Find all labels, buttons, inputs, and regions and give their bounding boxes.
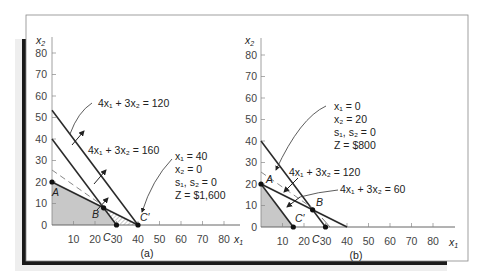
svg-text:x₂ = 20: x₂ = 20 bbox=[334, 113, 367, 125]
svg-text:20: 20 bbox=[89, 233, 101, 245]
label-c: C bbox=[312, 233, 320, 245]
svg-text:30: 30 bbox=[111, 233, 123, 245]
svg-text:Z = $800: Z = $800 bbox=[334, 139, 376, 151]
svg-text:20: 20 bbox=[245, 178, 257, 190]
svg-text:70: 70 bbox=[197, 233, 209, 245]
svg-text:Z = $1,600: Z = $1,600 bbox=[175, 189, 226, 201]
svg-text:80: 80 bbox=[245, 49, 257, 61]
svg-text:0: 0 bbox=[251, 221, 257, 233]
svg-text:60: 60 bbox=[35, 90, 47, 102]
label-60: 4x₁ + 3x₂ = 60 bbox=[340, 183, 406, 195]
svg-text:10: 10 bbox=[245, 199, 257, 211]
svg-text:0: 0 bbox=[41, 219, 47, 231]
svg-text:x₁ = 40: x₁ = 40 bbox=[175, 150, 208, 162]
svg-text:80: 80 bbox=[218, 233, 230, 245]
svg-text:60: 60 bbox=[245, 92, 257, 104]
svg-text:70: 70 bbox=[35, 68, 47, 80]
point-c bbox=[323, 224, 328, 229]
label-b: B bbox=[92, 208, 99, 220]
svg-text:60: 60 bbox=[384, 235, 396, 247]
svg-text:60: 60 bbox=[175, 233, 187, 245]
figure: 0 10 20 30 40 50 60 70 80 x2 10 20 30 40… bbox=[0, 0, 486, 280]
svg-text:40: 40 bbox=[245, 135, 257, 147]
point-b bbox=[310, 207, 315, 212]
svg-text:40: 40 bbox=[341, 235, 353, 247]
svg-text:x₁ = 0: x₁ = 0 bbox=[334, 100, 361, 112]
panel-caption: (a) bbox=[141, 247, 154, 259]
point-a bbox=[49, 179, 54, 184]
svg-text:20: 20 bbox=[298, 235, 310, 247]
svg-text:s₁, s₂ = 0: s₁, s₂ = 0 bbox=[175, 176, 217, 188]
panel-caption: (b) bbox=[350, 249, 363, 261]
point-c-prime bbox=[135, 222, 140, 227]
label-120: 4x₁ + 3x₂ = 120 bbox=[289, 166, 360, 178]
svg-text:80: 80 bbox=[427, 235, 439, 247]
svg-text:30: 30 bbox=[320, 235, 332, 247]
svg-text:10: 10 bbox=[277, 235, 289, 247]
svg-text:x₂ = 0: x₂ = 0 bbox=[175, 163, 202, 175]
svg-text:50: 50 bbox=[35, 111, 47, 123]
point-a bbox=[258, 181, 263, 186]
svg-text:80: 80 bbox=[35, 47, 47, 59]
point-c bbox=[114, 222, 119, 227]
y-tick-labels: 0 10 20 30 40 50 60 70 80 bbox=[35, 47, 47, 231]
svg-text:70: 70 bbox=[245, 70, 257, 82]
svg-text:50: 50 bbox=[363, 235, 375, 247]
label-a: A bbox=[51, 186, 59, 198]
label-c-prime: C′ bbox=[295, 212, 306, 224]
svg-text:s₁, s₂ = 0: s₁, s₂ = 0 bbox=[334, 126, 376, 138]
svg-text:10: 10 bbox=[68, 233, 80, 245]
svg-text:40: 40 bbox=[132, 233, 144, 245]
point-b bbox=[101, 205, 106, 210]
point-c-prime bbox=[291, 224, 296, 229]
svg-text:70: 70 bbox=[406, 235, 418, 247]
svg-text:10: 10 bbox=[35, 197, 47, 209]
svg-text:30: 30 bbox=[35, 154, 47, 166]
svg-text:40: 40 bbox=[35, 133, 47, 145]
y-tick-labels: 0 10 20 30 40 50 60 70 80 bbox=[245, 49, 257, 233]
label-a: A bbox=[265, 173, 273, 185]
svg-text:20: 20 bbox=[35, 176, 47, 188]
label-c-prime: C′ bbox=[140, 211, 151, 223]
label-b: B bbox=[316, 196, 323, 208]
svg-text:30: 30 bbox=[245, 156, 257, 168]
svg-text:50: 50 bbox=[245, 113, 257, 125]
label-120: 4x₁ + 3x₂ = 120 bbox=[98, 97, 169, 109]
svg-text:50: 50 bbox=[154, 233, 166, 245]
label-160: 4x₁ + 3x₂ = 160 bbox=[88, 144, 159, 156]
label-c: C bbox=[103, 231, 111, 243]
